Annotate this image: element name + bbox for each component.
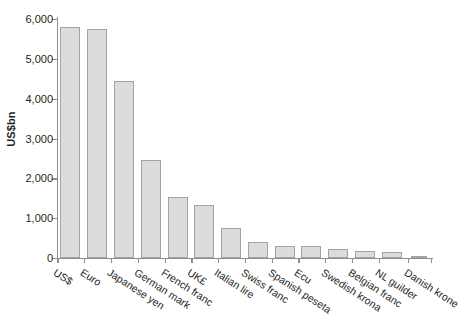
x-axis-tick [165, 258, 166, 263]
bar [87, 29, 107, 258]
x-axis-tick [431, 258, 432, 263]
bar [382, 252, 402, 258]
bar [194, 205, 214, 258]
x-axis-tick [245, 258, 246, 263]
x-axis-tick [57, 258, 58, 263]
bar [328, 249, 348, 258]
bar [141, 160, 161, 258]
y-axis-tick-label: 0 [47, 252, 53, 264]
x-axis-tick [111, 258, 112, 263]
bar [168, 197, 188, 258]
bar [275, 246, 295, 258]
y-axis-tick-label: 1,000 [25, 212, 53, 224]
x-axis-category-label: US$ [52, 266, 76, 287]
y-axis-title-label: US$bn [5, 111, 17, 146]
bar [248, 242, 268, 258]
x-axis-tick [191, 258, 192, 263]
y-axis-tick-label: 2,000 [25, 172, 53, 184]
x-axis-tick [138, 258, 139, 263]
bar [411, 256, 427, 258]
y-axis-title: US$bn [0, 0, 22, 258]
bar [301, 246, 321, 258]
y-axis-tick-label: 6,000 [25, 13, 53, 25]
x-axis-tick [218, 258, 219, 263]
plot-area: 01,0002,0003,0004,0005,0006,000 [57, 19, 432, 258]
bar [114, 81, 134, 258]
x-axis-tick [379, 258, 380, 263]
bar [355, 251, 375, 258]
x-axis-tick [84, 258, 85, 263]
y-axis-tick-label: 5,000 [25, 53, 53, 65]
x-axis-tick [272, 258, 273, 263]
x-axis-category-label: Euro [79, 266, 104, 288]
x-axis-tick [325, 258, 326, 263]
x-axis-tick [352, 258, 353, 263]
bar [221, 228, 241, 258]
x-axis-tick [298, 258, 299, 263]
y-axis-tick-label: 4,000 [25, 93, 53, 105]
x-axis-tick [408, 258, 409, 263]
y-axis-tick-label: 3,000 [25, 133, 53, 145]
bar [60, 27, 80, 258]
